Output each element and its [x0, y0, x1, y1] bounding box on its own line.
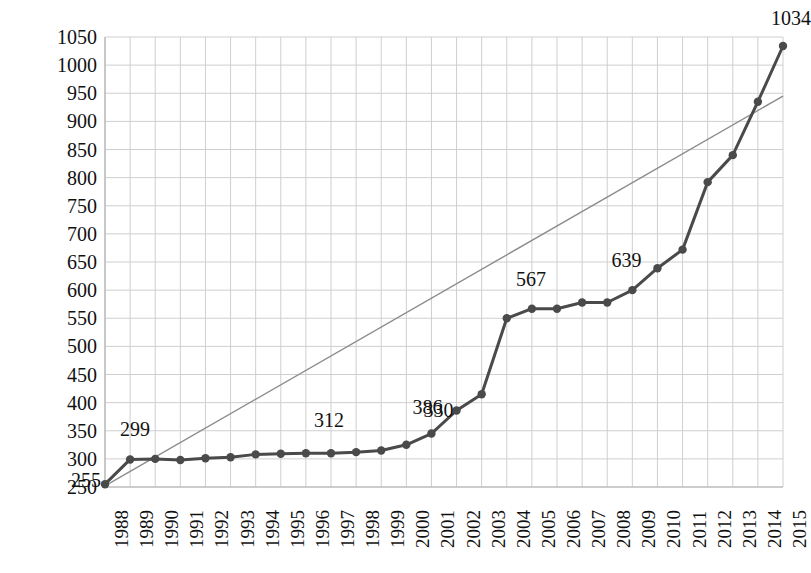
y-axis-tick-label: 900	[67, 111, 97, 131]
y-axis-tick-label: 850	[67, 140, 97, 160]
data-point	[151, 455, 159, 463]
data-point	[201, 454, 209, 462]
x-axis-tick-label: 1995	[288, 510, 307, 548]
y-axis-tick-label: 450	[67, 365, 97, 385]
x-axis-tick-label: 2008	[614, 510, 633, 548]
data-point-value-label: 312	[314, 410, 344, 430]
x-axis-tick-label: 1993	[238, 510, 257, 548]
data-point-value-label: 386	[413, 397, 443, 417]
x-axis-tick-label: 2005	[539, 510, 558, 548]
data-point	[427, 429, 435, 437]
y-axis-tick-label: 700	[67, 224, 97, 244]
data-point	[327, 449, 335, 457]
data-point	[101, 480, 109, 488]
data-point	[226, 453, 234, 461]
data-point	[779, 42, 787, 50]
data-point-value-label: 255	[71, 470, 101, 490]
x-axis-tick-label: 1990	[162, 510, 181, 548]
x-axis-tick-label: 1992	[212, 510, 231, 548]
y-axis-tick-label: 750	[67, 196, 97, 216]
data-point	[402, 441, 410, 449]
x-axis-tick-label: 1999	[388, 510, 407, 548]
data-point-value-label: 639	[611, 250, 641, 270]
data-point	[302, 449, 310, 457]
trend-line	[105, 96, 783, 486]
x-axis-tick-label: 2015	[790, 510, 809, 548]
x-axis-tick-label: 1994	[263, 510, 282, 548]
data-point	[578, 298, 586, 306]
data-point	[754, 97, 762, 105]
data-point	[603, 298, 611, 306]
y-axis-tick-label: 1050	[57, 27, 97, 47]
x-axis-tick-label: 2013	[740, 510, 759, 548]
data-point	[477, 390, 485, 398]
data-point	[553, 304, 561, 312]
x-axis-tick-label: 2014	[765, 510, 784, 548]
y-axis-tick-label: 950	[67, 83, 97, 103]
x-axis-tick-label: 2012	[715, 510, 734, 548]
y-axis-tick-label: 650	[67, 252, 97, 272]
x-axis-tick-label: 2001	[438, 510, 457, 548]
y-axis-tick-label: 300	[67, 449, 97, 469]
data-point	[452, 406, 460, 414]
y-axis-tick-label: 350	[67, 421, 97, 441]
x-axis-tick-label: 2004	[514, 510, 533, 548]
data-point	[628, 286, 636, 294]
x-axis-tick-label: 1996	[313, 510, 332, 548]
x-axis-tick-label: 2002	[464, 510, 483, 548]
x-axis-tick-label: 2010	[664, 510, 683, 548]
data-point	[251, 450, 259, 458]
data-point-value-label: 567	[516, 269, 546, 289]
data-point-value-label: 1034	[771, 8, 811, 28]
x-axis-tick-label: 2007	[589, 510, 608, 548]
data-point	[678, 245, 686, 253]
data-point	[377, 446, 385, 454]
y-axis-tick-label: 800	[67, 168, 97, 188]
x-axis-tick-label: 1997	[338, 510, 357, 548]
data-point	[352, 448, 360, 456]
data-point	[528, 304, 536, 312]
data-point-value-label: 299	[120, 419, 150, 439]
x-axis-tick-label: 1991	[187, 510, 206, 548]
data-point	[503, 314, 511, 322]
x-axis-tick-label: 1998	[363, 510, 382, 548]
y-axis-tick-label: 550	[67, 308, 97, 328]
x-axis-tick-label: 1989	[137, 510, 156, 548]
data-point	[653, 264, 661, 272]
data-point	[126, 455, 134, 463]
y-axis-tick-label: 1000	[57, 55, 97, 75]
data-point	[729, 151, 737, 159]
y-axis-tick-label: 600	[67, 280, 97, 300]
data-point	[703, 178, 711, 186]
x-axis-tick-label: 2006	[564, 510, 583, 548]
x-axis-tick-label: 2000	[413, 510, 432, 548]
data-point	[176, 456, 184, 464]
x-axis-tick-label: 2011	[690, 511, 709, 548]
x-axis-tick-label: 2003	[489, 510, 508, 548]
data-point	[277, 450, 285, 458]
x-axis-tick-label: 1988	[112, 510, 131, 548]
y-axis-tick-label: 400	[67, 393, 97, 413]
y-axis-tick-label: 500	[67, 336, 97, 356]
x-axis-tick-label: 2009	[639, 510, 658, 548]
